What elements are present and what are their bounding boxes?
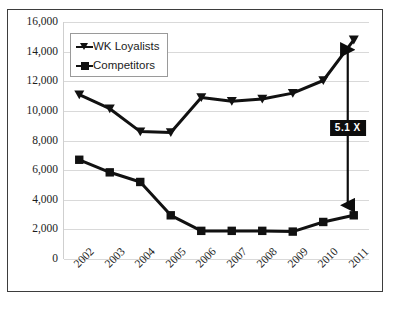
y-axis-tick: 6,000 [6, 164, 58, 176]
legend-item-wk-loyalists: WK Loyalists [76, 37, 163, 56]
x-axis-tick-labels: 2002200320042005200620072008200920102011 [63, 262, 368, 310]
y-axis-tick: 8,000 [6, 135, 58, 147]
y-axis-tick: 16,000 [6, 16, 58, 28]
legend-label-wk-loyalists: WK Loyalists [93, 41, 159, 53]
triangle-marker-icon [76, 41, 93, 53]
y-axis-tick: 0 [6, 253, 58, 265]
y-axis-tick-labels: 16,00014,00012,00010,0008,0006,0004,0002… [8, 22, 58, 259]
legend-label-competitors: Competitors [93, 60, 155, 72]
chart-frame: 16,00014,00012,00010,0008,0006,0004,0002… [7, 9, 383, 292]
chart-legend: WK Loyalists Competitors [70, 33, 168, 77]
legend-item-competitors: Competitors [76, 56, 163, 75]
ratio-annotation-label: 5.1 X [330, 120, 366, 136]
square-marker-icon [76, 60, 93, 72]
y-axis-tick: 2,000 [6, 224, 58, 236]
y-axis-tick: 14,000 [6, 46, 58, 58]
y-axis-tick: 4,000 [6, 194, 58, 206]
y-axis-tick: 10,000 [6, 105, 58, 117]
y-axis-tick: 12,000 [6, 76, 58, 88]
